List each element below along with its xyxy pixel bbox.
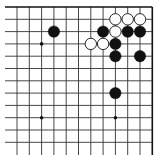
go-board-grid[interactable] [0, 0, 157, 155]
white-stone[interactable] [85, 38, 96, 49]
black-stone[interactable] [134, 51, 145, 62]
black-stone[interactable] [110, 38, 121, 49]
white-stone[interactable] [110, 14, 121, 25]
go-board[interactable] [0, 0, 157, 155]
black-stone[interactable] [110, 51, 121, 62]
black-stone[interactable] [48, 26, 59, 37]
white-stone[interactable] [97, 38, 108, 49]
black-stone[interactable] [110, 87, 121, 98]
star-point [40, 116, 44, 120]
white-stone[interactable] [134, 14, 145, 25]
star-point [114, 116, 118, 120]
white-stone[interactable] [110, 26, 121, 37]
star-point [40, 42, 44, 46]
black-stone[interactable] [97, 26, 108, 37]
white-stone[interactable] [122, 14, 133, 25]
black-stone[interactable] [134, 26, 145, 37]
black-stone[interactable] [122, 26, 133, 37]
